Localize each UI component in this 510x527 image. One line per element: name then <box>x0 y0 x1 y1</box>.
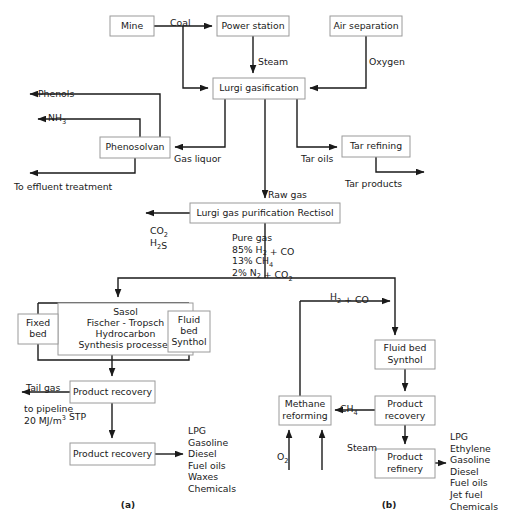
product-list-a-item: LPG <box>188 425 206 436</box>
edge-tar-refining-products <box>376 157 424 172</box>
edge-gasification-tar-oils <box>297 99 337 147</box>
node-methane-reforming: Methanereforming <box>279 396 331 425</box>
caption-b: (b) <box>382 500 397 510</box>
edge-label-coal: Coal <box>170 17 190 28</box>
node-fluid-bed-synthol-a: FluidbedSynthol <box>168 311 210 352</box>
label-pure-gas-line-3: 2% N2 + CO2 <box>232 267 293 283</box>
node-product-refinery-label: Product <box>387 451 423 462</box>
node-sasol-processes-label: Fischer - Tropsch <box>87 317 164 328</box>
node-rectisol-label: Lurgi gas purification Rectisol <box>196 207 333 218</box>
edge-label-raw-gas: Raw gas <box>268 189 307 200</box>
edge-pure-gas-split-left <box>118 278 265 297</box>
node-sasol-processes-label: Synthesis processes <box>78 339 172 350</box>
node-product-refinery-label: refinery <box>387 463 424 474</box>
node-methane-reforming-label: reforming <box>282 410 327 421</box>
node-fluid-bed-synthol-b-label: Fluid bed <box>384 342 427 353</box>
flow-diagram-canvas: MinePower stationAir separationLurgi gas… <box>0 0 510 527</box>
node-power-station: Power station <box>217 16 289 36</box>
edge-label-h2s: H2S <box>150 237 167 251</box>
node-lurgi-gasification-label: Lurgi gasification <box>219 82 299 93</box>
node-product-recovery-a2: Product recovery <box>70 443 155 465</box>
edge-label-o2: O2 <box>277 451 289 465</box>
node-air-separation: Air separation <box>330 16 402 36</box>
node-fluid-bed-synthol-a-label: bed <box>180 325 198 336</box>
product-list-b-item: LPG <box>450 431 468 442</box>
node-tar-refining: Tar refining <box>342 136 410 157</box>
edge-label-tar-oils: Tar oils <box>300 153 333 164</box>
product-list-b-item: Chemicals <box>450 501 498 512</box>
node-air-separation-label: Air separation <box>333 20 398 31</box>
node-methane-reforming-label: Methane <box>285 398 326 409</box>
product-list-b-item: Jet fuel <box>449 489 483 500</box>
nodes-layer: MinePower stationAir separationLurgi gas… <box>18 16 435 478</box>
node-tar-refining-label: Tar refining <box>349 140 402 151</box>
edge-label-steam: Steam <box>258 56 288 67</box>
node-product-recovery-a1-label: Product recovery <box>73 386 152 397</box>
caption-a: (a) <box>121 500 135 510</box>
edge-label-steam-b: Steam <box>347 442 377 453</box>
product-list-b-item: Fuel oils <box>450 477 488 488</box>
edge-label-gas-liquor: Gas liquor <box>174 153 221 164</box>
node-fluid-bed-synthol-a-label: Synthol <box>171 336 206 347</box>
node-fixed-bed: Fixedbed <box>18 314 58 344</box>
edge-label-to-effluent: To effluent treatment <box>13 181 113 192</box>
edge-air-separation-oxygen <box>310 36 366 88</box>
edge-label-phenols: Phenols <box>38 88 74 99</box>
edge-label-oxygen: Oxygen <box>369 56 405 67</box>
product-list-a-item: Gasoline <box>188 437 228 448</box>
product-list-a-item: Diesel <box>188 448 217 459</box>
node-power-station-label: Power station <box>221 20 284 31</box>
node-product-recovery-b-label: Product <box>387 398 423 409</box>
node-sasol-processes-label: Sasol <box>113 306 138 317</box>
edge-label-nh3: NH3 <box>48 112 66 126</box>
node-product-recovery-b: Productrecovery <box>375 396 435 425</box>
node-product-recovery-a1: Product recovery <box>70 381 155 403</box>
label-pure-gas-line-0: Pure gas <box>232 232 272 243</box>
edge-label-h2-co: H2 + CO <box>330 291 369 305</box>
edge-label-ch4: CH4 <box>340 403 358 417</box>
edge-pure-gas-split-right <box>265 278 395 335</box>
node-product-recovery-b-label: recovery <box>385 410 426 421</box>
edge-coal-to-gasification <box>183 26 208 88</box>
node-rectisol: Lurgi gas purification Rectisol <box>190 203 340 223</box>
process-flow-diagram: MinePower stationAir separationLurgi gas… <box>0 0 510 527</box>
edge-label-tail-gas: Tail gas <box>25 382 61 393</box>
node-mine-label: Mine <box>121 20 143 31</box>
product-list-a-item: Fuel oils <box>188 460 226 471</box>
product-list-b-item: Diesel <box>450 466 479 477</box>
product-list-b-item: Ethylene <box>450 443 491 454</box>
node-mine: Mine <box>110 16 154 36</box>
node-fixed-bed-label: bed <box>29 328 47 339</box>
edge-label-tar-products: Tar products <box>344 178 402 189</box>
product-list-a-item: Waxes <box>188 471 218 482</box>
node-phenosolvan: Phenosolvan <box>100 137 170 158</box>
node-lurgi-gasification: Lurgi gasification <box>213 78 305 99</box>
product-list-a-item: Chemicals <box>188 483 236 494</box>
product-list-b-item: Gasoline <box>450 454 490 465</box>
node-product-refinery: Productrefinery <box>375 449 435 478</box>
node-fluid-bed-synthol-a-label: Fluid <box>178 314 200 325</box>
edge-phenosolvan-effluent <box>30 158 135 173</box>
node-fluid-bed-synthol-b: Fluid bedSynthol <box>375 340 435 369</box>
node-fixed-bed-label: Fixed <box>26 317 50 328</box>
node-phenosolvan-label: Phenosolvan <box>105 141 164 152</box>
edge-gasification-gas-liquor <box>175 99 225 147</box>
node-sasol-processes-label: Hydrocarbon <box>96 328 156 339</box>
node-fluid-bed-synthol-b-label: Synthol <box>387 354 422 365</box>
node-product-recovery-a2-label: Product recovery <box>73 448 152 459</box>
